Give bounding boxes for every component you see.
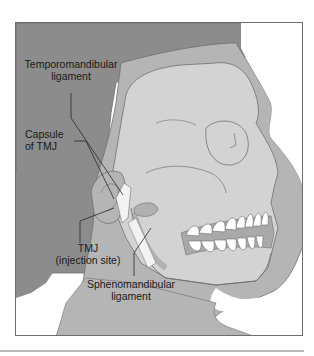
- label-line: (injection site): [46, 254, 130, 266]
- label-line: Sphenomandibular: [76, 278, 186, 290]
- label-line: Capsule: [25, 128, 64, 140]
- label-line: TMJ: [46, 242, 130, 254]
- label-temporomandibular-ligament: Temporomandibular ligament: [21, 58, 121, 82]
- label-line: ligament: [21, 70, 121, 82]
- hair-lower: [16, 173, 84, 298]
- label-line: ligament: [76, 290, 186, 302]
- label-capsule-of-tmj: Capsule of TMJ: [25, 128, 64, 152]
- label-tmj-injection-site: TMJ (injection site): [46, 242, 130, 266]
- label-line: of TMJ: [25, 140, 64, 152]
- diagram-frame: Temporomandibular ligament Capsule of TM…: [15, 22, 303, 336]
- label-sphenomandibular-ligament: Sphenomandibular ligament: [76, 278, 186, 302]
- bottom-divider: [0, 350, 304, 352]
- label-line: Temporomandibular: [21, 58, 121, 70]
